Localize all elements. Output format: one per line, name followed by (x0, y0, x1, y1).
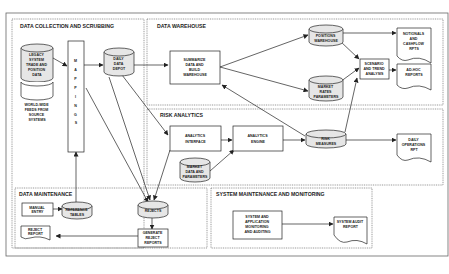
analytics-interface-box[interactable] (170, 126, 221, 151)
depot-label: DAILY DATA DEPOT (113, 57, 126, 71)
sys-monitoring-label: SYSTEM AND APPLICATION MONITORING AND AU… (244, 215, 270, 234)
analytics-engine-box[interactable] (233, 126, 283, 151)
positions-label: POSITIONS WAREHOUSE (314, 34, 338, 43)
manual-entry-label: MANUAL ENTRY (29, 206, 46, 215)
rejects-label: REJECTS (145, 209, 162, 213)
section-maintenance (15, 188, 207, 248)
data-flow-diagram: DATA COLLECTION AND SCRUBBING DATA WAREH… (0, 0, 449, 274)
section-title-system: SYSTEM MAINTENANCE AND MONITORING (216, 191, 325, 197)
section-title-warehouse: DATA WAREHOUSE (157, 23, 206, 29)
feeds-label: WORLD-WIDE FEEDS FROM SOURCE SYSTEMS (24, 103, 49, 122)
scenario-label: SCENARIO AND TREND ANALYSIS (363, 62, 385, 76)
adhoc-label: AD-HOC REPORTS (405, 68, 423, 77)
section-title-maintenance: DATA MAINTENANCE (19, 191, 73, 197)
section-title-collection: DATA COLLECTION AND SCRUBBING (20, 23, 114, 29)
world-wide-feeds-store[interactable] (21, 82, 53, 100)
reject-report-label: REJECT REPORT (28, 228, 44, 237)
section-title-risk: RISK ANALYTICS (160, 112, 203, 118)
generate-rejects-label: GENERATE REJECT REPORTS (143, 231, 164, 245)
